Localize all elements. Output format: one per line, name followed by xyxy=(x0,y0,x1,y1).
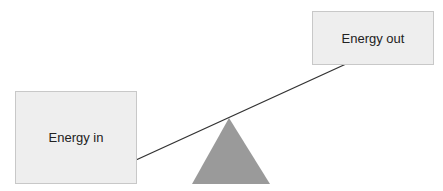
fulcrum-triangle xyxy=(192,118,270,184)
energy-in-box: Energy in xyxy=(15,91,137,184)
energy-out-label: Energy out xyxy=(342,31,405,46)
energy-out-box: Energy out xyxy=(312,11,434,65)
energy-in-label: Energy in xyxy=(49,130,104,145)
